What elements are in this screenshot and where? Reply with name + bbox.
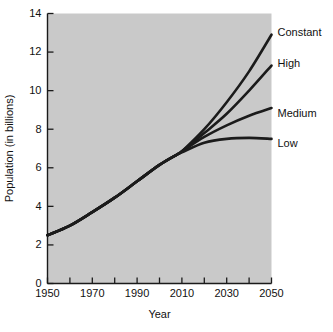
x-tick-label-2050: 2050 [259,287,283,299]
x-tick-label-1950: 1950 [35,287,59,299]
y-tick-label-12: 12 [29,45,41,57]
series-labels: ConstantHighMediumLow [278,26,322,149]
chart-svg: 02468101214 195019701990201020302050 Con… [0,0,333,332]
y-tick-label-2: 2 [35,238,41,250]
x-axis-title: Year [148,308,171,320]
y-tick-label-14: 14 [29,7,41,19]
y-tick-label-10: 10 [29,84,41,96]
y-axis-title: Population (in billions) [3,95,15,203]
series-label-low: Low [278,137,298,149]
population-projection-chart: 02468101214 195019701990201020302050 Con… [0,0,333,332]
y-tick-label-6: 6 [35,161,41,173]
y-tick-label-4: 4 [35,200,41,212]
x-tick-label-2010: 2010 [170,287,194,299]
series-label-constant: Constant [278,26,322,38]
series-label-high: High [278,57,301,69]
x-tick-label-2030: 2030 [214,287,238,299]
series-label-medium: Medium [278,107,317,119]
plot-background [48,14,272,284]
x-tick-label-1970: 1970 [80,287,104,299]
x-tick-label-1990: 1990 [125,287,149,299]
y-tick-label-8: 8 [35,123,41,135]
